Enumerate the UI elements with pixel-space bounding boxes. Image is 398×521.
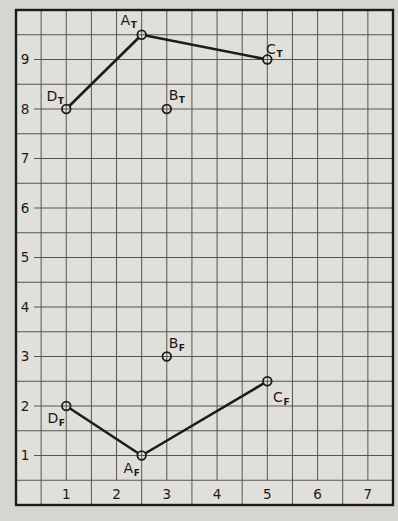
point-marker-BT [163, 105, 172, 114]
x-tick-label: 3 [163, 486, 172, 502]
y-tick-label: 2 [21, 398, 30, 414]
grid-chart-svg: 1234567891234567DTATBTCTDFAFBFCF [0, 0, 398, 521]
y-axis-ticks: 123456789 [21, 51, 30, 463]
x-tick-label: 7 [364, 486, 373, 502]
y-tick-label: 7 [21, 150, 30, 166]
y-tick-label: 6 [21, 200, 30, 216]
point-marker-AT [137, 30, 146, 39]
x-tick-label: 6 [313, 486, 322, 502]
x-tick-label: 5 [263, 486, 272, 502]
point-marker-CF [263, 377, 272, 386]
y-tick-label: 4 [21, 299, 30, 315]
x-tick-label: 1 [62, 486, 71, 502]
y-tick-label: 1 [21, 447, 30, 463]
y-tick-label: 3 [21, 348, 30, 364]
point-marker-BF [163, 352, 172, 361]
grid-lines [16, 10, 393, 505]
y-tick-label: 9 [21, 51, 30, 67]
graph-paper-figure: 1234567891234567DTATBTCTDFAFBFCF [0, 0, 398, 521]
x-tick-label: 2 [112, 486, 121, 502]
y-tick-label: 8 [21, 101, 30, 117]
x-tick-label: 4 [213, 486, 222, 502]
point-marker-DF [62, 402, 71, 411]
point-marker-AF [137, 451, 146, 460]
y-tick-label: 5 [21, 249, 30, 265]
